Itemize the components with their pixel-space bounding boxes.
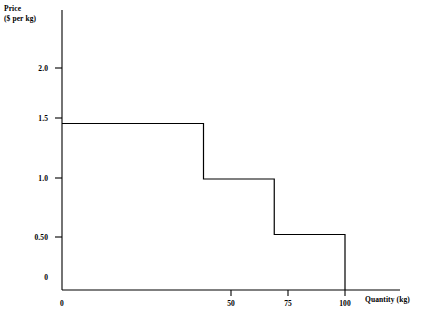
chart-container: Price ($ per kg) Quantity (kg) 2.0 1.5 1… [0, 0, 426, 320]
axes-group [62, 10, 400, 290]
demand-step-curve [62, 124, 345, 291]
y-tick-marks [55, 68, 62, 237]
plot-area [0, 0, 426, 320]
x-tick-marks [231, 290, 345, 296]
